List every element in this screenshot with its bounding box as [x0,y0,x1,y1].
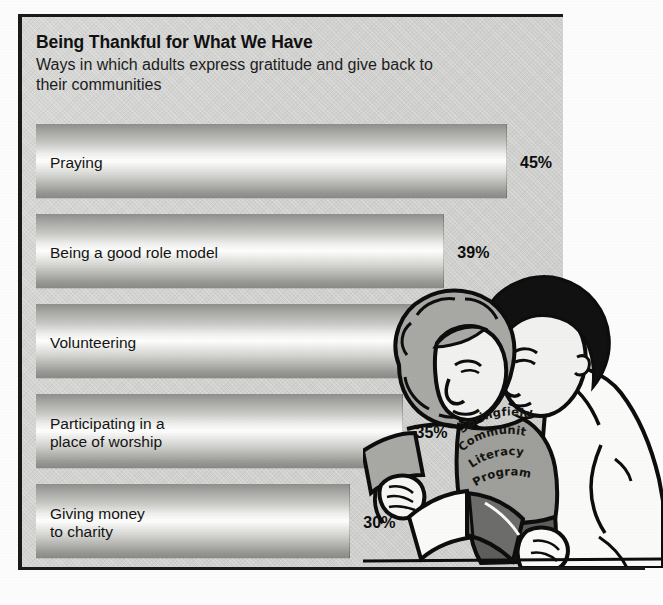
bar [36,124,507,198]
bar-label: Volunteering [50,333,136,351]
bar-value: 45% [520,154,552,172]
frame-rule-top [18,14,563,17]
page-title: Being Thankful for What We Have [36,32,466,52]
page-subtitle: Ways in which adults express gratitude a… [36,55,466,94]
bar-label: Being a good role model [50,243,218,261]
frame-rule-left [18,14,22,570]
illustration-two-adults-reading: Springfield Community Literacy Program [363,269,663,570]
infographic-frame: Being Thankful for What We Have Ways in … [18,14,645,570]
bar-label: Praying [50,153,103,171]
frame-rule-bottom [18,567,645,570]
bar-label: Participating in a place of worship [50,414,165,451]
bar-value: 39% [457,244,489,262]
bar-label: Giving money to charity [50,504,145,541]
bar-row: Praying45% [36,124,556,201]
heading-block: Being Thankful for What We Have Ways in … [36,32,466,94]
